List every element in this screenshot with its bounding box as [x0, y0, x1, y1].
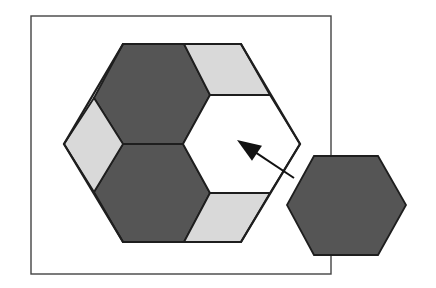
loose-hexagon-piece — [287, 156, 406, 255]
assembled-hexagon — [64, 44, 300, 242]
dark-hex-loose — [287, 156, 406, 255]
hexagon-puzzle-diagram — [0, 0, 436, 288]
